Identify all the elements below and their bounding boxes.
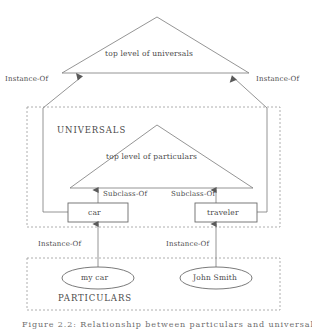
left-rail-connector	[43, 108, 68, 212]
john-smith-oval-label: John Smith	[193, 274, 237, 282]
instance-of-label-left-particulars: Instance-Of	[38, 241, 81, 248]
outer-triangle	[62, 17, 249, 73]
car-box-label: car	[88, 209, 101, 217]
figure-container: top level of universals Instance-Of Inst…	[0, 0, 315, 330]
outer-triangle-label: top level of universals	[105, 50, 193, 58]
instance-of-label-right-universals: Instance-Of	[256, 76, 299, 83]
subclass-of-label-left: Subclass-Of	[103, 191, 147, 198]
traveler-box-label: traveler	[207, 209, 239, 217]
particulars-zone-label: PARTICULARS	[58, 294, 132, 303]
instance-of-label-left-universals: Instance-Of	[5, 76, 48, 83]
figure-caption: Figure 2.2: Relationship between particu…	[22, 320, 312, 329]
my-car-oval-label: my car	[81, 274, 108, 282]
instance-of-label-right-particulars: Instance-Of	[166, 241, 209, 248]
subclass-of-label-right: Subclass-Of	[171, 191, 215, 198]
instance-of-edge-left-universals	[43, 78, 80, 108]
right-rail-connector	[246, 108, 267, 212]
universals-zone-label: UNIVERSALS	[57, 126, 126, 135]
inner-triangle-label: top level of particulars	[106, 153, 197, 161]
